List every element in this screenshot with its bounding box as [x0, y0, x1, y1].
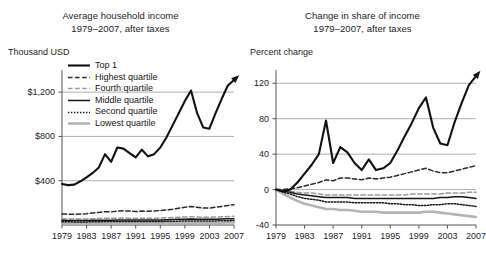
x-axis-tick-label: 1979	[266, 231, 286, 241]
y-axis-tick-label: 0	[242, 185, 269, 195]
right-plot-area	[276, 70, 476, 225]
legend-item-highest-quartile[interactable]: Highest quartile	[68, 72, 158, 84]
y-axis-tick-label: -40	[242, 220, 269, 230]
x-axis-tick-label: 1999	[409, 231, 429, 241]
panel-right-share: Change in share of income 1979–2007, aft…	[242, 0, 483, 260]
left-title-line1: Average household income	[0, 10, 241, 23]
legend-item-lowest-quartile[interactable]: Lowest quartile	[68, 118, 158, 130]
legend-swatch-icon	[68, 60, 90, 71]
x-axis-tick-label: 1991	[126, 231, 146, 241]
legend-item-top-1[interactable]: Top 1	[68, 60, 158, 72]
x-axis-tick-label: 2003	[199, 231, 219, 241]
left-chart-title: Average household income 1979–2007, afte…	[0, 10, 241, 35]
y-axis-tick-label: 120	[242, 78, 269, 88]
right-chart-svg	[276, 70, 476, 225]
legend-swatch-icon	[68, 83, 90, 94]
legend-swatch-icon	[68, 95, 90, 106]
series-line-top-1	[276, 76, 476, 191]
x-axis-tick-label: 1999	[175, 231, 195, 241]
x-axis-tick-label: 2003	[437, 231, 457, 241]
y-axis-tick-label: $800	[0, 131, 55, 141]
x-axis-tick-label: 1987	[323, 231, 343, 241]
y-axis-tick-label: 80	[242, 114, 269, 124]
y-axis-tick-label: 40	[242, 149, 269, 159]
x-axis-tick-label: 1995	[150, 231, 170, 241]
legend-item-label: Fourth quartile	[95, 83, 153, 95]
left-axis-unit-label: Thousand USD	[8, 47, 70, 57]
right-title-line2: 1979–2007, after taxes	[242, 23, 483, 36]
left-legend: Top 1Highest quartileFourth quartileMidd…	[68, 60, 158, 130]
series-line-lowest-quartile	[62, 223, 234, 224]
legend-item-label: Top 1	[95, 60, 117, 72]
legend-swatch-icon	[68, 107, 90, 118]
x-axis-tick-label: 1995	[380, 231, 400, 241]
left-title-line2: 1979–2007, after taxes	[0, 23, 241, 36]
legend-item-label: Second quartile	[95, 106, 158, 118]
legend-item-label: Lowest quartile	[95, 118, 156, 130]
right-title-line1: Change in share of income	[242, 10, 483, 23]
x-axis-tick-label: 2007	[466, 231, 486, 241]
legend-item-middle-quartile[interactable]: Middle quartile	[68, 95, 158, 107]
legend-swatch-icon	[68, 72, 90, 83]
x-axis-tick-label: 2007	[224, 231, 244, 241]
y-axis-tick-label: $400	[0, 176, 55, 186]
legend-swatch-icon	[68, 118, 90, 129]
legend-item-label: Highest quartile	[95, 72, 158, 84]
x-axis-tick-label: 1991	[352, 231, 372, 241]
x-axis-tick-label: 1983	[77, 231, 97, 241]
series-line-highest-quartile	[62, 205, 234, 215]
panel-left-income: Average household income 1979–2007, afte…	[0, 0, 241, 260]
right-axis-unit-label: Percent change	[250, 47, 313, 57]
x-axis-tick-label: 1983	[295, 231, 315, 241]
right-chart-title: Change in share of income 1979–2007, aft…	[242, 10, 483, 35]
x-axis-tick-label: 1979	[52, 231, 72, 241]
legend-item-fourth-quartile[interactable]: Fourth quartile	[68, 83, 158, 95]
legend-item-label: Middle quartile	[95, 95, 154, 107]
legend-item-second-quartile[interactable]: Second quartile	[68, 106, 158, 118]
series-line-fourth-quartile	[276, 190, 476, 195]
x-axis-tick-label: 1987	[101, 231, 121, 241]
y-axis-tick-label: $1,200	[0, 87, 55, 97]
